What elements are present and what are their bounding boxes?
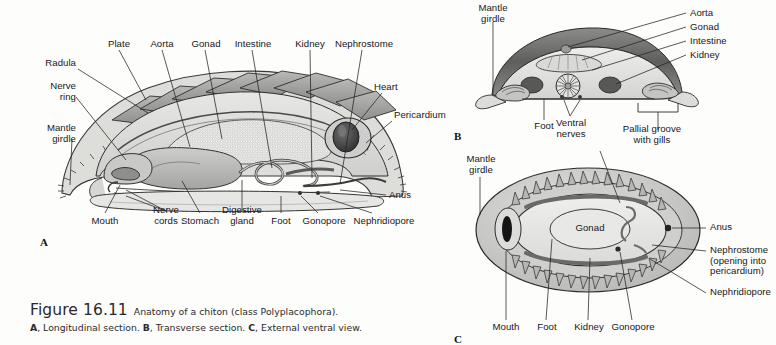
label-c-nephrostome: Nephrostome(opening intopericardium)	[710, 245, 776, 277]
panel-c-external-ventral-view: Mantlegirdle Gonad Anus Nephrostome(open…	[440, 145, 776, 345]
label-a-nerve-ring: Nervering	[8, 81, 76, 102]
label-a-intestine: Intestine	[226, 39, 280, 50]
label-b-pallial-groove: Pallial groovewith gills	[596, 124, 708, 145]
anus-opening	[665, 225, 671, 231]
label-b-aorta: Aorta	[690, 8, 750, 19]
label-b-kidney: Kidney	[690, 50, 750, 61]
panel-c-letter: C	[454, 333, 462, 345]
ventral-nerve-right	[578, 95, 582, 99]
label-c-gonopore: Gonopore	[604, 322, 662, 333]
label-c-mantle-girdle: Mantlegirdle	[448, 154, 514, 175]
intestine-lumen	[565, 83, 571, 89]
kidney-right	[599, 77, 621, 93]
figure-title: Anatomy of a chiton (class Polyplacophor…	[134, 306, 338, 317]
label-b-intestine: Intestine	[690, 36, 760, 47]
label-a-nephridiopore: Nephridiopore	[345, 216, 423, 227]
label-b-gonad: Gonad	[690, 22, 750, 33]
label-c-mouth: Mouth	[480, 322, 532, 333]
label-a-mantle-girdle: Mantlegirdle	[2, 123, 76, 144]
label-a-aorta: Aorta	[139, 39, 185, 50]
label-c-foot: Foot	[526, 322, 568, 333]
label-c-nephridiopore: Nephridiopore	[710, 287, 776, 298]
label-c-gonad: Gonad	[564, 223, 616, 234]
label-a-heart: Heart	[374, 82, 424, 93]
heart-highlight	[338, 125, 346, 137]
panel-a-letter: A	[40, 236, 48, 248]
label-a-gonad: Gonad	[182, 39, 230, 50]
figure-number: Figure 16.11	[30, 301, 128, 319]
panel-b-letter: B	[454, 130, 461, 142]
label-a-plate: Plate	[96, 39, 142, 50]
label-a-nephrostome: Nephrostome	[330, 39, 398, 50]
label-a-kidney: Kidney	[286, 39, 334, 50]
label-b-mantle-girdle: Mantlegirdle	[460, 3, 526, 24]
label-a-radula: Radula	[8, 58, 76, 69]
label-a-mouth: Mouth	[77, 216, 133, 227]
figure-root: Radula Nervering Mantlegirdle Plate Aort…	[0, 0, 776, 345]
mouth-opening	[502, 216, 512, 242]
gonopore-marker	[298, 191, 302, 195]
figure-subcaption: A, Longitudinal section. B, Transverse s…	[30, 321, 450, 335]
label-b-ventral-nerves: Ventralnerves	[540, 118, 602, 139]
figure-caption: Figure 16.11Anatomy of a chiton (class P…	[30, 300, 450, 335]
gonopore-opening	[615, 246, 620, 251]
label-c-anus: Anus	[710, 222, 754, 233]
nephridiopore-marker	[316, 191, 320, 195]
label-a-anus: Anus	[389, 190, 429, 201]
panel-a-longitudinal-section: Radula Nervering Mantlegirdle Plate Aort…	[0, 0, 440, 270]
ventral-nerve-left	[560, 95, 564, 99]
pallial-bracket	[638, 103, 678, 112]
